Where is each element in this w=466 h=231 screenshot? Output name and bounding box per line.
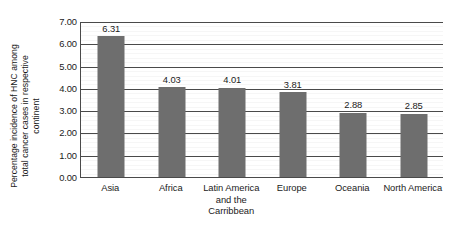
y-axis-tick-label: 2.00 xyxy=(44,129,77,138)
x-axis-category-label-line: and the xyxy=(201,194,262,206)
bar-value-label: 2.85 xyxy=(405,101,423,110)
x-axis-category-label: Europe xyxy=(262,182,323,194)
bar xyxy=(340,113,367,177)
bar xyxy=(279,92,306,177)
x-axis-category-label-line: Asia xyxy=(80,182,141,194)
y-axis-title: Percentage incidence of HNC among total … xyxy=(9,44,43,188)
x-axis-category-label: Asia xyxy=(80,182,141,194)
y-axis-tick-label: 7.00 xyxy=(44,17,77,26)
x-axis-category-label-line: Carribbean xyxy=(201,205,262,217)
bar-value-label: 6.31 xyxy=(102,24,120,33)
y-axis-tick-label: 5.00 xyxy=(44,62,77,71)
bar-slot: 4.01 xyxy=(202,22,263,177)
bar xyxy=(400,114,427,178)
y-axis-tick-label: 6.00 xyxy=(44,40,77,49)
bar-chart-figure: Percentage incidence of HNC among total … xyxy=(0,0,466,231)
x-axis-category-label-line: Latin America xyxy=(201,182,262,194)
bar xyxy=(98,36,125,177)
x-axis-category-label: Africa xyxy=(141,182,202,194)
bar-slot: 6.31 xyxy=(81,22,142,177)
bar-series: 6.314.034.013.812.882.85 xyxy=(81,22,443,177)
bar-slot: 4.03 xyxy=(142,22,203,177)
bar-value-label: 2.88 xyxy=(344,100,362,109)
x-axis-category-label-line: Oceania xyxy=(322,182,383,194)
y-axis-tick-labels: 0.001.002.003.004.005.006.007.00 xyxy=(44,22,77,178)
y-axis-title-line-2: total cancer cases in respective xyxy=(20,44,31,188)
y-axis-title-line-3: continent xyxy=(32,44,43,188)
bar-value-label: 3.81 xyxy=(284,80,302,89)
plot-area: 6.314.034.013.812.882.85 xyxy=(80,22,443,178)
bar xyxy=(158,87,185,177)
x-axis-category-labels: AsiaAfricaLatin Americaand theCarribbean… xyxy=(80,182,443,230)
bar-value-label: 4.01 xyxy=(223,75,241,84)
x-axis-category-label: North America xyxy=(383,182,444,194)
bar-value-label: 4.03 xyxy=(163,75,181,84)
y-axis-tick-label: 4.00 xyxy=(44,84,77,93)
y-axis-tick-label: 1.00 xyxy=(44,151,77,160)
bar-slot: 2.88 xyxy=(323,22,384,177)
bar-slot: 2.85 xyxy=(384,22,445,177)
x-axis-category-label: Latin Americaand theCarribbean xyxy=(201,182,262,217)
y-axis-tick-label: 3.00 xyxy=(44,106,77,115)
x-axis-category-label-line: Europe xyxy=(262,182,323,194)
y-axis-tick-label: 0.00 xyxy=(44,173,77,182)
bar xyxy=(219,88,246,177)
x-axis-category-label-line: North America xyxy=(383,182,444,194)
x-axis-category-label: Oceania xyxy=(322,182,383,194)
x-axis-category-label-line: Africa xyxy=(141,182,202,194)
y-axis-title-line-1: Percentage incidence of HNC among xyxy=(9,44,20,188)
bar-slot: 3.81 xyxy=(263,22,324,177)
